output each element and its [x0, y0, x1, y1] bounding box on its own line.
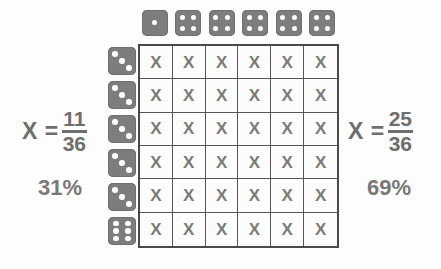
- outcome-cell: X: [238, 113, 271, 146]
- die-pip-icon: [152, 20, 157, 25]
- outcome-cell: X: [271, 213, 304, 246]
- die-pip-icon: [119, 92, 125, 98]
- outcome-cell: X: [140, 113, 173, 146]
- column-die-5: [276, 10, 302, 36]
- column-die-1: [142, 10, 168, 36]
- left-fraction: 11 36: [62, 108, 87, 155]
- right-probability-label: X = 25 36: [348, 108, 413, 155]
- outcome-cell: X: [173, 113, 206, 146]
- outcome-cell: X: [238, 179, 271, 212]
- outcome-cell: X: [206, 79, 239, 112]
- die-pip-icon: [112, 153, 118, 159]
- column-die-4: [242, 10, 268, 36]
- die-pip-icon: [119, 58, 125, 64]
- die-pip-icon: [126, 201, 132, 207]
- die-pip-icon: [126, 133, 132, 139]
- die-pip-icon: [113, 221, 119, 227]
- left-fraction-denominator: 36: [62, 133, 87, 154]
- die-pip-icon: [119, 126, 125, 132]
- row-die-4: [108, 149, 136, 177]
- die-pip-icon: [113, 228, 119, 234]
- outcome-cell: X: [206, 46, 239, 79]
- outcome-cell: X: [238, 146, 271, 179]
- die-pip-icon: [213, 15, 218, 20]
- row-die-1: [108, 47, 136, 75]
- outcome-cell: X: [238, 46, 271, 79]
- outcome-cell: X: [304, 146, 337, 179]
- die-pip-icon: [247, 26, 252, 31]
- row-die-2: [108, 81, 136, 109]
- die-pip-icon: [125, 228, 131, 234]
- die-pip-icon: [125, 236, 131, 242]
- outcome-cell: X: [206, 179, 239, 212]
- outcome-cell: X: [206, 113, 239, 146]
- die-pip-icon: [180, 26, 185, 31]
- outcome-cell: X: [173, 213, 206, 246]
- outcome-cell: X: [304, 79, 337, 112]
- outcome-cell: X: [238, 79, 271, 112]
- outcome-cell: X: [140, 213, 173, 246]
- right-fraction: 25 36: [388, 108, 413, 155]
- left-fraction-numerator: 11: [62, 108, 86, 129]
- die-pip-icon: [292, 26, 297, 31]
- die-pip-icon: [180, 15, 185, 20]
- outcome-cell: X: [271, 113, 304, 146]
- outcome-cell: X: [238, 213, 271, 246]
- die-pip-icon: [258, 26, 263, 31]
- row-die-6: [108, 217, 136, 245]
- die-pip-icon: [126, 167, 132, 173]
- left-percentage: 31%: [38, 175, 82, 201]
- left-probability-label: X = 11 36: [22, 108, 87, 155]
- die-pip-icon: [213, 26, 218, 31]
- die-pip-icon: [119, 194, 125, 200]
- die-pip-icon: [225, 15, 230, 20]
- outcome-cell: X: [304, 46, 337, 79]
- right-fraction-denominator: 36: [388, 133, 413, 154]
- outcome-cell: X: [271, 46, 304, 79]
- die-pip-icon: [325, 26, 330, 31]
- row-die-5: [108, 183, 136, 211]
- die-pip-icon: [119, 160, 125, 166]
- die-pip-icon: [126, 99, 132, 105]
- column-die-2: [175, 10, 201, 36]
- outcome-cell: X: [140, 79, 173, 112]
- outcome-cell: X: [173, 179, 206, 212]
- die-pip-icon: [112, 51, 118, 57]
- die-pip-icon: [191, 15, 196, 20]
- outcome-cell: X: [304, 179, 337, 212]
- die-pip-icon: [112, 119, 118, 125]
- outcome-cell: X: [140, 46, 173, 79]
- die-pip-icon: [126, 65, 132, 71]
- outcome-cell: X: [173, 79, 206, 112]
- outcome-cell: X: [271, 179, 304, 212]
- outcome-cell: X: [271, 146, 304, 179]
- die-pip-icon: [113, 236, 119, 242]
- die-pip-icon: [280, 26, 285, 31]
- outcome-cell: X: [140, 179, 173, 212]
- die-pip-icon: [292, 15, 297, 20]
- outcome-cell: X: [206, 213, 239, 246]
- die-pip-icon: [225, 26, 230, 31]
- die-pip-icon: [314, 26, 319, 31]
- die-pip-icon: [280, 15, 285, 20]
- die-pip-icon: [125, 221, 131, 227]
- die-pip-icon: [314, 15, 319, 20]
- left-equation-variable: X =: [22, 118, 59, 145]
- die-pip-icon: [247, 15, 252, 20]
- outcome-cell: X: [140, 146, 173, 179]
- outcome-cell: X: [304, 113, 337, 146]
- outcome-cell: X: [304, 213, 337, 246]
- right-percentage: 69%: [367, 175, 411, 201]
- die-pip-icon: [258, 15, 263, 20]
- die-pip-icon: [191, 26, 196, 31]
- outcome-grid: XXXXXXXXXXXXXXXXXXXXXXXXXXXXXXXXXXXX: [138, 44, 339, 248]
- column-die-3: [209, 10, 235, 36]
- outcome-cell: X: [206, 146, 239, 179]
- die-pip-icon: [112, 187, 118, 193]
- die-pip-icon: [325, 15, 330, 20]
- column-die-6: [309, 10, 335, 36]
- row-die-3: [108, 115, 136, 143]
- die-pip-icon: [112, 85, 118, 91]
- diagram-canvas: XXXXXXXXXXXXXXXXXXXXXXXXXXXXXXXXXXXX X =…: [0, 0, 441, 269]
- right-fraction-numerator: 25: [388, 108, 413, 129]
